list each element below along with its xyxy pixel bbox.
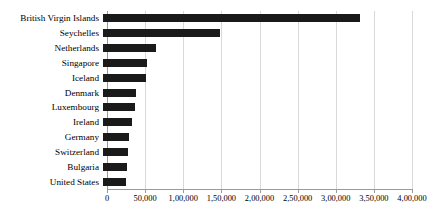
category-label: Seychelles (0, 28, 103, 38)
category-label: Switzerland (0, 147, 103, 157)
category-label: Ireland (0, 117, 103, 127)
bar-row: Denmark (0, 85, 445, 100)
bar-track (103, 174, 445, 189)
category-label: Denmark (0, 88, 103, 98)
x-tick-label: 1,50,000 (207, 193, 236, 205)
bar-track (103, 70, 445, 85)
bar-track (103, 56, 445, 71)
category-label: Iceland (0, 73, 103, 83)
bar (103, 29, 220, 37)
bar (103, 59, 147, 67)
bar-track (103, 130, 445, 145)
x-axis-tick-mark (374, 189, 375, 193)
bar-row: Iceland (0, 70, 445, 85)
category-label: Netherlands (0, 43, 103, 53)
bar (103, 14, 360, 22)
x-axis-tick-mark (336, 189, 337, 193)
bar-row: Ireland (0, 115, 445, 130)
x-axis-tick-labels: 050,0001,00,0001,50,0002,00,0002,50,0003… (0, 193, 445, 209)
bar (103, 74, 146, 82)
category-label: Germany (0, 132, 103, 142)
x-tick-label: 2,50,000 (283, 193, 312, 205)
x-axis-tick-mark (145, 189, 146, 193)
x-axis-tick-mark (298, 189, 299, 193)
bar-row: Bulgaria (0, 159, 445, 174)
bar-track (103, 115, 445, 130)
bar-track (103, 159, 445, 174)
bar-track (103, 85, 445, 100)
bar-row: Germany (0, 130, 445, 145)
x-axis-tick-mark (412, 189, 413, 193)
bar-row: United States (0, 174, 445, 189)
bar-rows: British Virgin IslandsSeychellesNetherla… (0, 11, 445, 189)
x-axis-tick-mark (107, 189, 108, 193)
x-tick-label: 0 (105, 193, 109, 205)
bar-row: British Virgin Islands (0, 11, 445, 26)
x-tick-label: 2,00,000 (245, 193, 274, 205)
bar-track (103, 145, 445, 160)
category-label: Singapore (0, 58, 103, 68)
bar-row: Seychelles (0, 26, 445, 41)
bar-track (103, 26, 445, 41)
x-tick-label: 4,00,000 (397, 193, 426, 205)
x-tick-label: 50,000 (134, 193, 157, 205)
bar (103, 133, 129, 141)
x-tick-label: 3,50,000 (359, 193, 388, 205)
bar-row: Netherlands (0, 41, 445, 56)
x-tick-label: 3,00,000 (321, 193, 350, 205)
category-label: Luxembourg (0, 102, 103, 112)
category-label: United States (0, 177, 103, 187)
bar (103, 103, 135, 111)
x-axis-tick-mark (221, 189, 222, 193)
x-axis-tick-mark (183, 189, 184, 193)
bar-row: Switzerland (0, 145, 445, 160)
bar-chart: British Virgin IslandsSeychellesNetherla… (0, 0, 445, 216)
bar-row: Luxembourg (0, 100, 445, 115)
bar (103, 118, 132, 126)
bar (103, 178, 126, 186)
bar (103, 89, 136, 97)
bar-track (103, 11, 445, 26)
x-tick-label: 1,00,000 (169, 193, 198, 205)
category-label: British Virgin Islands (0, 13, 103, 23)
x-axis-tick-mark (260, 189, 261, 193)
bar (103, 44, 156, 52)
bar (103, 148, 128, 156)
bar (103, 163, 127, 171)
bar-track (103, 41, 445, 56)
bar-track (103, 100, 445, 115)
bar-row: Singapore (0, 56, 445, 71)
category-label: Bulgaria (0, 162, 103, 172)
